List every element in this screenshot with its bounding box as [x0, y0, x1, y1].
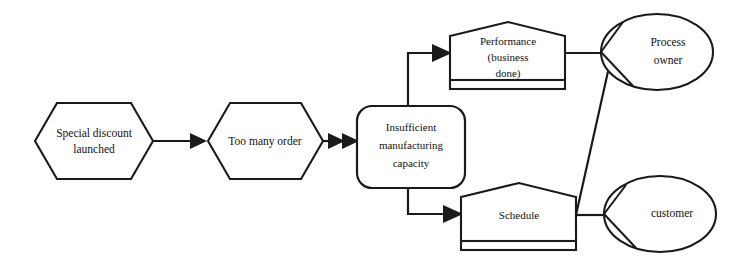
process-flow-diagram: Special discount launched Too many order…	[0, 0, 741, 262]
house-base-plate	[450, 80, 565, 89]
node-too-many-order[interactable]: Too many order	[208, 103, 323, 179]
connector-capacity-to-performance	[408, 44, 452, 106]
node-label-line: capacity	[393, 157, 430, 169]
node-schedule[interactable]: Schedule	[461, 183, 576, 250]
node-label-line: Special discount	[56, 127, 132, 140]
house-base-plate	[461, 241, 576, 250]
node-label-line: customer	[651, 207, 693, 219]
node-label-line: done)	[495, 67, 520, 80]
ellipse-shape	[601, 14, 713, 90]
connector-capacity-to-schedule	[408, 188, 463, 223]
node-label-line: Too many order	[228, 135, 301, 148]
flow-diagram-canvas: Special discount launched Too many order…	[0, 0, 741, 262]
node-label-line: Schedule	[499, 209, 539, 221]
node-label-line: Process	[650, 36, 686, 48]
node-label-line: Insufficient	[386, 121, 437, 133]
node-label-line: Performance	[480, 35, 536, 47]
node-customer[interactable]: customer	[604, 176, 716, 252]
node-label-line: manufacturing	[379, 139, 444, 151]
node-special-discount-launched[interactable]: Special discount launched	[35, 103, 153, 179]
connector-discount-to-orders	[153, 133, 207, 149]
node-label-line: owner	[654, 54, 683, 66]
node-label-line: (business	[488, 51, 529, 64]
arrow-head-icon	[190, 133, 207, 149]
node-label-line: launched	[73, 143, 115, 155]
node-performance-business-done[interactable]: Performance (business done)	[450, 22, 565, 89]
connector-orders-to-capacity	[323, 133, 359, 149]
node-insufficient-manufacturing-capacity[interactable]: Insufficient manufacturing capacity	[357, 106, 465, 188]
connector-schedule-to-process-owner	[576, 58, 611, 215]
node-process-owner[interactable]: Process owner	[601, 14, 713, 90]
hexagon-shape	[35, 103, 153, 179]
